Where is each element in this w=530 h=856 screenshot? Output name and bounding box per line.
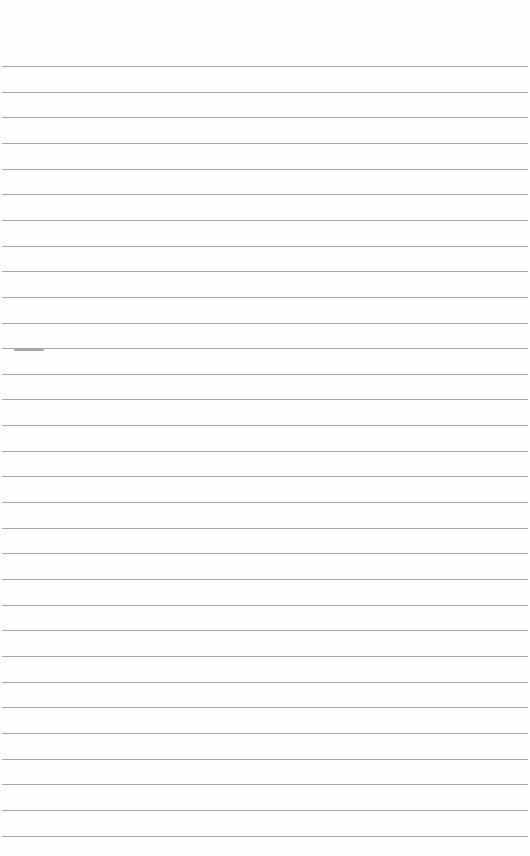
- ruled-line: [2, 271, 528, 272]
- ruled-line: [2, 399, 528, 400]
- ruled-line: [2, 297, 528, 298]
- ruled-line: [2, 605, 528, 606]
- ruled-line: [2, 707, 528, 708]
- ruled-line: [2, 579, 528, 580]
- ruled-line: [2, 528, 528, 529]
- ruled-line: [2, 810, 528, 811]
- ruled-line: [2, 476, 528, 477]
- ruled-line: [2, 759, 528, 760]
- ruled-line: [2, 836, 528, 837]
- pen-mark: [14, 349, 44, 351]
- ruled-line: [2, 451, 528, 452]
- ruled-line: [2, 733, 528, 734]
- ruled-line: [2, 553, 528, 554]
- ruled-line: [2, 169, 528, 170]
- ruled-line: [2, 92, 528, 93]
- ruled-line: [2, 348, 528, 349]
- ruled-line: [2, 246, 528, 247]
- ruled-line: [2, 117, 528, 118]
- ruled-line: [2, 323, 528, 324]
- ruled-line: [2, 143, 528, 144]
- ruled-line: [2, 220, 528, 221]
- ruled-line: [2, 502, 528, 503]
- ruled-line: [2, 66, 528, 67]
- ruled-line: [2, 682, 528, 683]
- ruled-line: [2, 656, 528, 657]
- ruled-line: [2, 630, 528, 631]
- ruled-line: [2, 784, 528, 785]
- ruled-line: [2, 194, 528, 195]
- ruled-line: [2, 374, 528, 375]
- ruled-line: [2, 425, 528, 426]
- ruled-page: [0, 0, 530, 856]
